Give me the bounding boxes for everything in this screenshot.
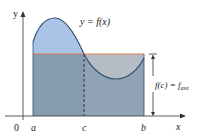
- average-height-arrow-up-icon: [151, 55, 155, 59]
- y-axis-arrow-icon: [21, 11, 26, 17]
- curve-label: y = f(x): [79, 16, 111, 28]
- area-above-average: [33, 18, 84, 54]
- x-axis-arrow-icon: [180, 114, 186, 119]
- area-under-curve-a-c: [33, 54, 84, 116]
- origin-label: 0: [14, 122, 19, 133]
- average-label-main: f(c) = f: [155, 80, 182, 90]
- y-axis-label: y: [13, 8, 18, 19]
- tick-label-c: c: [82, 122, 87, 133]
- tick-label-a: a: [31, 122, 36, 133]
- average-label-subscript: ave: [181, 85, 190, 91]
- tick-label-b: b: [141, 122, 146, 133]
- mean-value-theorem-diagram: y x 0 a c b y = f(x) f(c) = fave: [0, 0, 199, 135]
- x-axis-label: x: [175, 121, 181, 132]
- average-height-arrow-down-icon: [151, 112, 155, 116]
